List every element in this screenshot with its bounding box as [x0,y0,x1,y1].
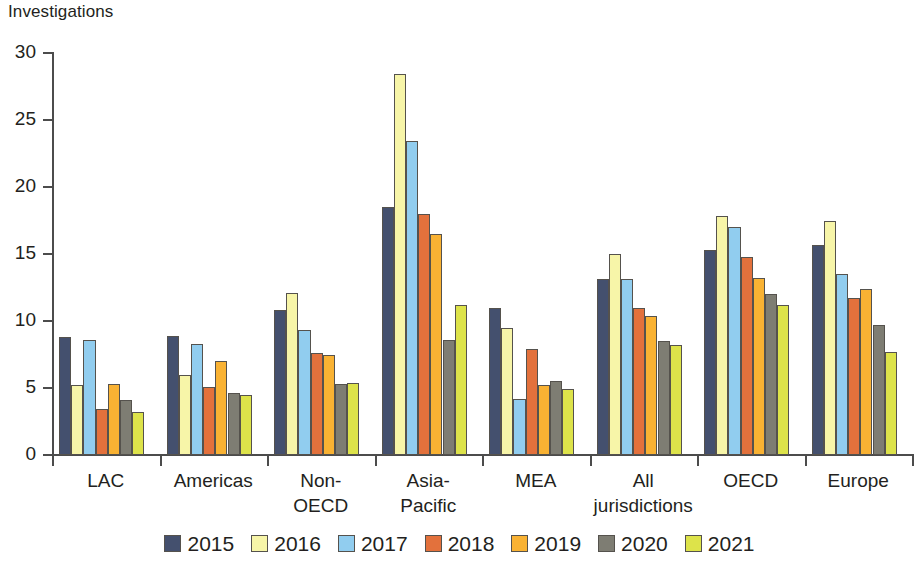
bar[interactable] [96,409,108,455]
y-axis-tick [43,454,52,456]
bar[interactable] [286,293,298,455]
y-axis-tick [43,387,52,389]
x-axis-tick [590,456,592,466]
bar[interactable] [274,310,286,455]
legend-label: 2021 [708,533,755,554]
bar[interactable] [347,383,359,455]
y-axis-tick-label: 15 [0,243,36,262]
bar[interactable] [812,245,824,455]
x-axis-category-label-line: Americas [160,468,268,493]
bar[interactable] [455,305,467,455]
x-axis-tick [52,456,54,466]
x-axis-category-label-line: All [590,468,698,493]
bar[interactable] [538,385,550,455]
bar[interactable] [550,381,562,455]
bar[interactable] [609,254,621,455]
bar[interactable] [71,385,83,455]
bar[interactable] [860,289,872,455]
x-axis-category-label: MEA [482,468,590,493]
bar[interactable] [228,393,240,455]
bar[interactable] [670,345,682,455]
bar[interactable] [406,141,418,455]
legend-swatch-icon [425,535,442,552]
chart-legend: 2015201620172018201920202021 [0,533,919,554]
bar[interactable] [167,336,179,455]
bar[interactable] [765,294,777,455]
legend-item[interactable]: 2020 [598,533,668,554]
bar[interactable] [120,400,132,455]
x-axis-category-label-line: Europe [805,468,913,493]
bar[interactable] [777,305,789,455]
bar[interactable] [108,384,120,455]
bar[interactable] [513,399,525,455]
bar[interactable] [621,279,633,455]
bar[interactable] [633,308,645,455]
bar[interactable] [382,207,394,455]
bar[interactable] [562,389,574,455]
legend-item[interactable]: 2018 [425,533,495,554]
legend-item[interactable]: 2015 [164,533,234,554]
bar[interactable] [597,279,609,455]
bar[interactable] [298,330,310,455]
bar-group [274,53,359,455]
legend-label: 2017 [361,533,408,554]
bar[interactable] [418,214,430,455]
bar[interactable] [394,74,406,455]
legend-item[interactable]: 2019 [511,533,581,554]
y-axis-tick-label: 0 [0,444,36,463]
bar[interactable] [645,316,657,455]
bar[interactable] [215,361,227,455]
bar[interactable] [335,384,347,455]
legend-label: 2019 [534,533,581,554]
legend-item[interactable]: 2017 [338,533,408,554]
x-axis-category-label: Americas [160,468,268,493]
bar[interactable] [716,216,728,455]
legend-item[interactable]: 2016 [251,533,321,554]
bar[interactable] [741,257,753,455]
legend-label: 2018 [448,533,495,554]
x-axis-category-label: Non-OECD [267,468,375,518]
bar[interactable] [191,344,203,455]
bar[interactable] [526,349,538,455]
bar[interactable] [443,340,455,455]
x-axis-category-label-line: OECD [267,493,375,518]
legend-swatch-icon [338,535,355,552]
legend-swatch-icon [685,535,702,552]
bar[interactable] [753,278,765,455]
bar[interactable] [323,355,335,456]
x-axis-category-label-line: OECD [697,468,805,493]
bar[interactable] [704,250,716,455]
bar[interactable] [728,227,740,455]
bar[interactable] [132,412,144,455]
x-axis-tick [375,456,377,466]
bar[interactable] [501,328,513,455]
bar[interactable] [430,234,442,455]
bar[interactable] [873,325,885,455]
legend-item[interactable]: 2021 [685,533,755,554]
y-axis-tick [43,253,52,255]
legend-swatch-icon [251,535,268,552]
x-axis-category-label-line: LAC [52,468,160,493]
y-axis-title: Investigations [8,2,113,22]
bar[interactable] [240,395,252,455]
bar[interactable] [179,375,191,455]
bar[interactable] [658,341,670,455]
bar[interactable] [83,340,95,455]
bar[interactable] [848,298,860,455]
bar-group [167,53,252,455]
x-axis-category-label: OECD [697,468,805,493]
x-axis-category-label-line: Non- [267,468,375,493]
bar[interactable] [489,308,501,455]
bar[interactable] [203,387,215,455]
bar[interactable] [836,274,848,455]
bar[interactable] [59,337,71,455]
bar[interactable] [885,352,897,455]
bar[interactable] [311,353,323,455]
bar[interactable] [824,221,836,456]
x-axis-tick [482,456,484,466]
legend-label: 2015 [187,533,234,554]
x-axis-tick [912,456,914,466]
x-axis-tick [805,456,807,466]
y-axis-tick-label: 20 [0,176,36,195]
x-axis-category-label-line: MEA [482,468,590,493]
